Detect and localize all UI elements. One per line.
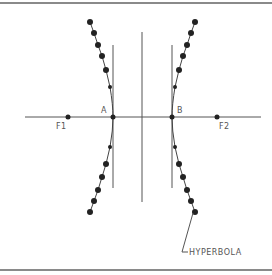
- left-branch-point: [99, 53, 105, 59]
- left-branch-point: [87, 19, 93, 25]
- vertex-left-label: A: [101, 106, 107, 115]
- left-branch-point: [103, 67, 109, 73]
- right-branch-point: [192, 19, 198, 25]
- right-branch-point: [180, 174, 186, 180]
- left-branch-point: [95, 187, 101, 193]
- left-branch-point: [91, 198, 97, 204]
- left-branch-point: [87, 209, 93, 215]
- curve-name-label: HYPERBOLA: [189, 248, 242, 257]
- right-branch-point: [173, 85, 177, 89]
- right-branch-point: [176, 67, 182, 73]
- left-branch-point: [91, 30, 97, 36]
- curve-leader-line: [182, 213, 193, 252]
- focus-right-point: [215, 115, 220, 120]
- right-branch-point: [188, 30, 194, 36]
- focus-left-label: F1: [56, 122, 67, 131]
- left-branch-point: [108, 145, 112, 149]
- left-branch-point: [99, 174, 105, 180]
- focus-left-point: [66, 115, 71, 120]
- right-branch-point: [188, 198, 194, 204]
- focus-right-label: F2: [219, 122, 230, 131]
- vertex-left-point: [111, 115, 116, 120]
- left-branch-point: [95, 42, 101, 48]
- right-branch-point: [184, 42, 190, 48]
- right-branch-point: [184, 187, 190, 193]
- left-branch-point: [103, 161, 109, 167]
- hyperbola-diagram: A B F1 F2 HYPERBOLA: [0, 0, 272, 275]
- diagram-canvas: A B F1 F2 HYPERBOLA: [0, 0, 272, 275]
- right-branch-point: [176, 161, 182, 167]
- right-branch-point: [173, 145, 177, 149]
- vertex-right-label: B: [177, 106, 183, 115]
- right-branch-point: [180, 53, 186, 59]
- vertex-right-point: [170, 115, 175, 120]
- left-branch-point: [108, 85, 112, 89]
